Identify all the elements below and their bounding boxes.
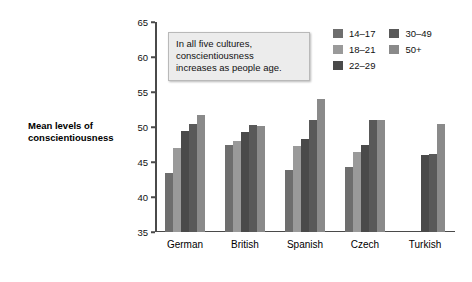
- x-axis-category-label: Czech: [351, 239, 379, 250]
- legend-swatch-icon: [333, 61, 343, 70]
- bar: [249, 125, 257, 232]
- legend-item: 14–17: [333, 28, 375, 39]
- bar: [257, 126, 265, 232]
- bar: [285, 170, 293, 232]
- bar: [225, 145, 233, 233]
- bar: [181, 131, 189, 233]
- x-axis-category-label: German: [167, 239, 203, 250]
- bar: [233, 141, 241, 232]
- bar: [293, 146, 301, 232]
- legend-swatch-icon: [333, 45, 343, 54]
- bar: [189, 124, 197, 233]
- bar: [421, 155, 429, 232]
- annotation-callout: In all five cultures, conscientiousness …: [168, 32, 310, 81]
- bar: [353, 152, 361, 233]
- legend-item: 30–49: [389, 28, 431, 39]
- x-axis-category-label: Spanish: [287, 239, 323, 250]
- bar: [165, 173, 173, 233]
- legend-item: 50+: [389, 44, 431, 55]
- bar: [309, 120, 317, 232]
- legend-label: 50+: [405, 44, 421, 55]
- bar: [377, 120, 385, 232]
- chart-legend: 14–1718–2122–2930–4950+: [333, 28, 432, 71]
- bar: [317, 99, 325, 232]
- chart-container: Mean levels of conscientiousness 3540455…: [0, 0, 472, 282]
- legend-label: 14–17: [349, 28, 375, 39]
- bar: [197, 115, 205, 232]
- bar: [301, 139, 309, 232]
- y-axis-title: Mean levels of conscientiousness: [28, 120, 133, 144]
- x-axis-category-label: Turkish: [409, 239, 441, 250]
- legend-label: 22–29: [349, 60, 375, 71]
- legend-swatch-icon: [333, 29, 343, 38]
- bar: [429, 154, 437, 232]
- bar: [173, 148, 181, 232]
- bar: [369, 120, 377, 232]
- bar: [361, 145, 369, 233]
- x-axis-category-label: British: [231, 239, 259, 250]
- legend-column: 14–1718–2122–29: [333, 28, 375, 71]
- annotation-line-2: conscientiousness: [176, 50, 302, 62]
- legend-item: 18–21: [333, 44, 375, 55]
- bar: [345, 167, 353, 232]
- legend-swatch-icon: [389, 29, 399, 38]
- bar: [241, 132, 249, 232]
- annotation-line-1: In all five cultures,: [176, 38, 302, 50]
- legend-label: 30–49: [405, 28, 431, 39]
- legend-column: 30–4950+: [389, 28, 431, 71]
- legend-label: 18–21: [349, 44, 375, 55]
- legend-item: 22–29: [333, 60, 375, 71]
- legend-swatch-icon: [389, 45, 399, 54]
- bar: [437, 124, 445, 233]
- annotation-line-3: increases as people age.: [176, 62, 302, 74]
